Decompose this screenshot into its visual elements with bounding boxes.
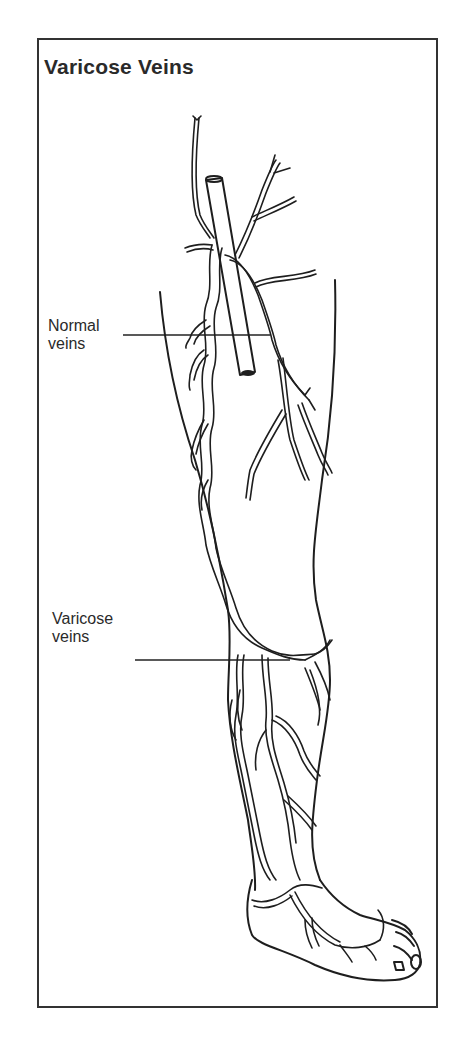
normal-veins [185,116,332,500]
leg-outline [160,280,421,980]
leg-illustration [0,0,464,1043]
varicose-veins [186,245,384,962]
